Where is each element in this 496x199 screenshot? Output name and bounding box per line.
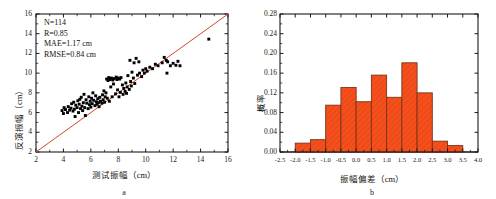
scatter-stat-line-2: MAE=1.17 cm: [44, 39, 96, 50]
scatter-x-tick-16: 16: [216, 155, 240, 164]
scatter-x-tick-2: 2: [24, 155, 48, 164]
histogram-y-axis-title: 概率: [254, 94, 266, 112]
histogram-bar: [341, 87, 356, 152]
scatter-x-axis-title: 测试振幅（cm）: [0, 168, 248, 180]
scatter-y-axis-title: 反演振幅（cm）: [12, 86, 24, 150]
panel-a-scatter: 246810121416 246810121416 N=114R=0.85MAE…: [0, 0, 248, 199]
scatter-x-tick-6: 6: [79, 155, 103, 164]
histogram-bar: [326, 105, 341, 152]
histogram-bar: [371, 75, 386, 152]
histogram-y-tick-0.20: 0.20: [250, 48, 277, 57]
scatter-y-tick-12: 12: [6, 48, 32, 57]
histogram-y-tick-0.24: 0.24: [250, 29, 277, 38]
scatter-stat-line-1: R=0.85: [44, 29, 96, 40]
histogram-y-tick-0.16: 0.16: [250, 68, 277, 77]
histogram-bar: [387, 97, 402, 152]
histogram-bar: [402, 63, 417, 152]
scatter-y-tick-16: 16: [6, 9, 32, 18]
histogram-y-tick-0.00: 0.00: [250, 147, 277, 156]
panel-b-caption: b: [248, 188, 496, 197]
histogram-bar: [356, 102, 371, 152]
histogram-svg: [248, 0, 496, 199]
histogram-bar: [417, 93, 432, 152]
scatter-x-tick-4: 4: [51, 155, 75, 164]
scatter-stat-line-3: RMSE=0.84 cm: [44, 50, 96, 61]
scatter-stat-line-0: N=114: [44, 18, 96, 29]
histogram-x-axis-title: 振幅偏差（cm）: [248, 172, 496, 184]
scatter-stats-annotation: N=114R=0.85MAE=1.17 cmRMSE=0.84 cm: [44, 18, 96, 60]
scatter-x-tick-10: 10: [134, 155, 158, 164]
histogram-x-tick-4.0: 4.0: [467, 156, 489, 163]
scatter-x-tick-8: 8: [106, 155, 130, 164]
figure-container: 246810121416 246810121416 N=114R=0.85MAE…: [0, 0, 496, 199]
panel-a-caption: a: [0, 188, 248, 197]
scatter-x-tick-12: 12: [161, 155, 185, 164]
histogram-y-tick-0.04: 0.04: [250, 127, 277, 136]
histogram-bars: [295, 63, 463, 152]
panel-b-histogram: 0.000.040.080.120.160.200.240.28 -2.5-2.…: [248, 0, 496, 199]
scatter-x-tick-14: 14: [189, 155, 213, 164]
scatter-y-tick-14: 14: [6, 29, 32, 38]
scatter-y-tick-10: 10: [6, 68, 32, 77]
histogram-y-tick-0.28: 0.28: [250, 9, 277, 18]
